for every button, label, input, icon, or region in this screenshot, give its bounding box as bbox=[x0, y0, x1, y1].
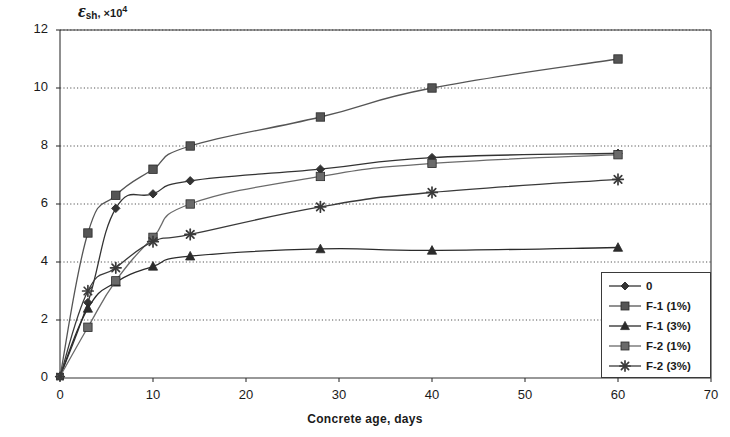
data-point-square bbox=[428, 84, 436, 92]
series-line bbox=[60, 153, 618, 376]
x-tick-label: 20 bbox=[226, 387, 266, 402]
x-tick-label: 10 bbox=[133, 387, 173, 402]
data-point-diamond bbox=[112, 204, 120, 212]
data-point-square bbox=[112, 277, 120, 285]
data-point-square bbox=[614, 55, 622, 63]
data-point-star bbox=[111, 263, 122, 274]
legend-item-f-2-1[interactable]: F-2 (1%) bbox=[602, 336, 710, 356]
data-point-square bbox=[428, 159, 436, 167]
legend-marker-triangle-icon bbox=[607, 319, 643, 333]
series-f-2-3 bbox=[56, 174, 624, 381]
x-tick-label: 40 bbox=[412, 387, 452, 402]
data-point-star bbox=[427, 187, 438, 198]
legend-item-f-2-3[interactable]: F-2 (3%) bbox=[602, 356, 710, 376]
legend-item-f-1-3[interactable]: F-1 (3%) bbox=[602, 316, 710, 336]
series-line bbox=[60, 179, 618, 376]
x-tick-label: 60 bbox=[598, 387, 638, 402]
data-point-triangle bbox=[83, 304, 92, 313]
data-point-square bbox=[316, 172, 324, 180]
series-0 bbox=[57, 149, 622, 380]
y-tick-label: 10 bbox=[8, 79, 48, 94]
data-point-star bbox=[83, 286, 94, 297]
chart-container: εsh, ×104 024681012 010203040506070 Conc… bbox=[0, 0, 730, 437]
data-point-square bbox=[84, 229, 92, 237]
data-point-triangle bbox=[148, 262, 157, 271]
data-series-group bbox=[56, 55, 624, 381]
y-tick-label: 6 bbox=[8, 195, 48, 210]
data-point-star bbox=[148, 236, 159, 247]
data-point-square bbox=[112, 191, 120, 199]
y-tick-label: 12 bbox=[8, 21, 48, 36]
y-tick-label: 0 bbox=[8, 369, 48, 384]
data-point-star bbox=[620, 361, 630, 371]
x-tick-label: 50 bbox=[505, 387, 545, 402]
data-point-star bbox=[56, 372, 65, 381]
series-line bbox=[60, 248, 618, 377]
legend-label: F-2 (1%) bbox=[646, 340, 691, 352]
legend-label: F-1 (3%) bbox=[646, 320, 691, 332]
data-point-square bbox=[84, 323, 92, 331]
data-point-square bbox=[621, 302, 629, 310]
data-point-star bbox=[613, 174, 624, 185]
legend-label: F-1 (1%) bbox=[646, 300, 691, 312]
legend-label: 0 bbox=[646, 280, 652, 292]
legend-marker-star-icon bbox=[607, 359, 643, 373]
series-f-1-1 bbox=[57, 55, 622, 380]
data-point-square bbox=[621, 342, 629, 350]
x-tick-label: 0 bbox=[40, 387, 80, 402]
x-axis-label: Concrete age, days bbox=[0, 412, 730, 426]
data-point-square bbox=[186, 142, 194, 150]
series-f-1-3 bbox=[56, 243, 622, 380]
data-point-square bbox=[149, 165, 157, 173]
y-tick-label: 4 bbox=[8, 253, 48, 268]
legend: 0F-1 (1%)F-1 (3%)F-2 (1%)F-2 (3%) bbox=[601, 272, 711, 378]
data-point-star bbox=[185, 229, 196, 240]
x-tick-label: 30 bbox=[319, 387, 359, 402]
series-line bbox=[60, 155, 618, 377]
data-point-star bbox=[315, 202, 326, 213]
legend-item-0[interactable]: 0 bbox=[602, 276, 710, 296]
legend-marker-square-icon bbox=[607, 299, 643, 313]
data-point-square bbox=[614, 151, 622, 159]
data-point-diamond bbox=[186, 177, 194, 185]
data-point-diamond bbox=[149, 190, 157, 198]
data-point-diamond bbox=[621, 282, 629, 290]
legend-item-f-1-1[interactable]: F-1 (1%) bbox=[602, 296, 710, 316]
series-line bbox=[60, 59, 618, 377]
x-tick-label: 70 bbox=[691, 387, 730, 402]
legend-marker-diamond-icon bbox=[607, 279, 643, 293]
data-point-square bbox=[316, 113, 324, 121]
y-tick-label: 2 bbox=[8, 311, 48, 326]
data-point-square bbox=[186, 200, 194, 208]
y-tick-label: 8 bbox=[8, 137, 48, 152]
legend-label: F-2 (3%) bbox=[646, 360, 691, 372]
legend-marker-square-icon bbox=[607, 339, 643, 353]
